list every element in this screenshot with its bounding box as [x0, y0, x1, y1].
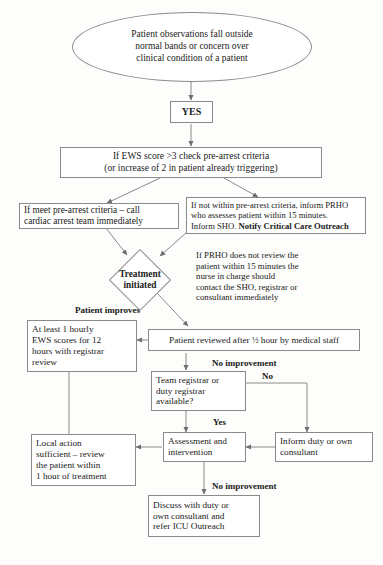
- not-within-line-3: Inform SHO. Notify Critical Care Outreac…: [191, 221, 349, 231]
- start-line-1: Patient observations fall outside: [131, 29, 253, 41]
- notify-critical-care-outreach: Notify Critical Care Outreach: [239, 221, 349, 231]
- no-improvement-label-upper: No improvement: [212, 358, 277, 368]
- patient-reviewed-pre: Patient reviewed after: [169, 335, 252, 345]
- ews-check-line-2: (or increase of 2 in patient already tri…: [104, 163, 277, 174]
- registrar-line-1: Team registrar or: [156, 375, 219, 386]
- patient-improves-label: Patient improves: [75, 305, 140, 315]
- prho-note: If PRHO does not review the patient with…: [196, 250, 371, 303]
- start-line-3: clinical condition of a patient: [136, 53, 247, 65]
- local-action-line-2: sufficient – review: [36, 449, 105, 460]
- meet-criteria-node: If meet pre-arrest criteria – call cardi…: [19, 203, 179, 229]
- not-within-line-3-plain: Inform SHO.: [191, 221, 239, 231]
- start-node: Patient observations fall outside normal…: [72, 12, 312, 82]
- registrar-line-3: available?: [156, 396, 193, 407]
- discuss-icu-line-2: own consultant and: [153, 511, 224, 522]
- discuss-icu-node: Discuss with duty or own consultant and …: [148, 495, 260, 537]
- prho-note-line-1: If PRHO does not review the: [196, 250, 371, 261]
- local-action-line-1: Local action: [36, 438, 82, 449]
- ews-check-line-1: If EWS score >3 check pre-arrest criteri…: [113, 151, 269, 162]
- patient-reviewed-post: hour by medical staff: [259, 335, 339, 345]
- prho-note-line-4: contact the SHO, registrar or: [196, 282, 371, 293]
- no-branch-label: No: [262, 371, 273, 381]
- assessment-line-1: Assessment and: [168, 436, 227, 447]
- hourly-ews-line-2: EWS scores for 12: [32, 335, 101, 346]
- prho-note-line-2: patient within 15 minutes the: [196, 261, 371, 272]
- edge-ews-to-meet: [107, 178, 160, 203]
- treatment-initiated-node: Treatment initiated: [96, 251, 184, 309]
- inform-duty-node: Inform duty or own consultant: [275, 432, 373, 462]
- registrar-line-2: duty registrar: [156, 386, 205, 397]
- inform-duty-line-1: Inform duty or own: [280, 436, 352, 447]
- patient-reviewed-label: Patient reviewed after ½ hour by medical…: [169, 335, 339, 346]
- edge-ews-to-notwithin: [224, 178, 258, 197]
- prho-note-line-3: nurse in charge should: [196, 271, 371, 282]
- hourly-ews-line-3: hours with registrar: [32, 346, 104, 357]
- hourly-ews-line-1: At least 1 hourly: [32, 324, 94, 335]
- yes-branch-label: Yes: [213, 417, 226, 427]
- hourly-ews-node: At least 1 hourly EWS scores for 12 hour…: [27, 320, 137, 372]
- local-action-node: Local action sufficient – review the pat…: [31, 434, 136, 486]
- patient-reviewed-node: Patient reviewed after ½ hour by medical…: [148, 329, 360, 351]
- hourly-ews-line-4: review: [32, 357, 57, 368]
- edge-no-branch-elbow: [246, 383, 307, 428]
- ews-check-node: If EWS score >3 check pre-arrest criteri…: [60, 147, 322, 178]
- flowchart-canvas: Patient observations fall outside normal…: [0, 0, 383, 565]
- assessment-node: Assessment and intervention: [163, 432, 246, 462]
- meet-criteria-line-1: If meet pre-arrest criteria – call: [24, 205, 140, 216]
- not-within-criteria-node: If not within pre-arrest criteria, infor…: [186, 197, 366, 234]
- meet-criteria-line-2: cardiac arrest team immediately: [24, 216, 143, 227]
- yes-gate-label: YES: [182, 106, 201, 118]
- discuss-icu-line-3: refer ICU Outreach: [153, 521, 224, 532]
- start-line-2: normal bands or concern over: [135, 41, 248, 53]
- discuss-icu-line-1: Discuss with duty or: [153, 500, 229, 511]
- treatment-diamond-label: Treatment initiated: [119, 269, 160, 290]
- treatment-line-1: Treatment: [119, 269, 160, 280]
- not-within-line-2: who assesses patient within 15 minutes.: [191, 210, 328, 220]
- local-action-line-3: the patient within: [36, 460, 100, 471]
- no-improvement-label-lower: No improvement: [212, 481, 277, 491]
- inform-duty-line-2: consultant: [280, 447, 318, 458]
- registrar-available-node: Team registrar or duty registrar availab…: [151, 371, 246, 411]
- treatment-line-2: initiated: [119, 280, 160, 291]
- local-action-line-4: 1 hour of treatment: [36, 471, 107, 482]
- not-within-line-1: If not within pre-arrest criteria, infor…: [191, 200, 348, 210]
- yes-gate-node: YES: [170, 101, 213, 123]
- assessment-line-2: intervention: [168, 447, 212, 458]
- prho-note-line-5: consultant immediately: [196, 292, 371, 303]
